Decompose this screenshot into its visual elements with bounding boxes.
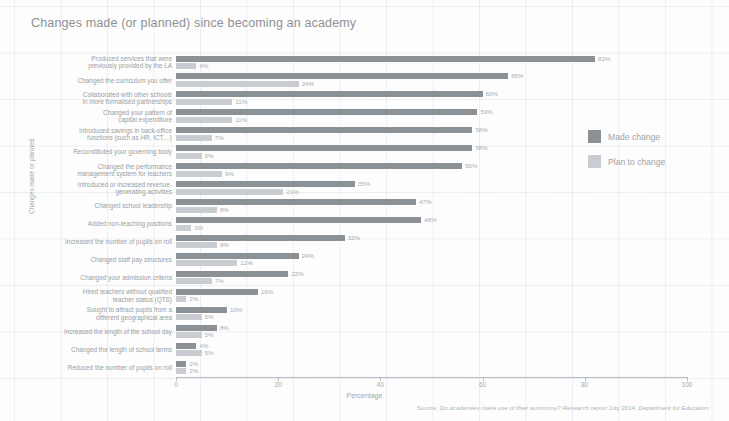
bar-value-label-made-change: 60%: [486, 90, 498, 97]
bar-made-change: [176, 91, 483, 97]
chart-page: Changes made (or planned) since becoming…: [0, 0, 729, 421]
bar-made-change: [176, 307, 227, 313]
x-axis-tick-label: 100: [682, 381, 693, 388]
bar-group: 82%4%: [176, 54, 687, 72]
bar-value-label-made-change: 4%: [199, 342, 208, 349]
bar-value-label-made-change: 16%: [261, 288, 273, 295]
legend-label-plan-to-change: Plan to change: [608, 157, 665, 167]
bar-group: 33%8%: [176, 233, 687, 251]
bar-plan-to-change: [176, 296, 186, 302]
x-axis-title: Percentage: [0, 392, 729, 399]
legend-label-made-change: Made change: [608, 132, 660, 142]
bar-value-label-plan-to-change: 12%: [240, 259, 252, 266]
category-label: Produced services that were previously p…: [22, 55, 172, 70]
bar-made-change: [176, 109, 477, 115]
bar-value-label-plan-to-change: 11%: [235, 116, 247, 123]
bar-plan-to-change: [176, 207, 217, 213]
category-label: Sought to attract pupils from a differen…: [22, 306, 172, 321]
bar-plan-to-change: [176, 135, 212, 141]
category-label: Changed staff pay structures: [22, 256, 172, 263]
bar-group: 4%5%: [176, 341, 687, 359]
category-label: Changed school leadership: [22, 202, 172, 209]
bar-made-change: [176, 56, 595, 62]
bar-value-label-plan-to-change: 8%: [220, 241, 229, 248]
bar-group: 22%7%: [176, 269, 687, 287]
bar-value-label-plan-to-change: 11%: [235, 98, 247, 105]
legend-entry-made-change: Made change: [588, 130, 665, 143]
bar-value-label-made-change: 22%: [291, 270, 303, 277]
bar-value-label-plan-to-change: 21%: [286, 188, 298, 195]
bar-value-label-plan-to-change: 5%: [205, 349, 214, 356]
bar-value-label-plan-to-change: 2%: [189, 295, 198, 302]
bar-value-label-plan-to-change: 7%: [215, 134, 224, 141]
bar-value-label-made-change: 58%: [475, 126, 487, 133]
category-label: Introduced savings in back-office functi…: [22, 127, 172, 142]
bar-made-change: [176, 217, 421, 223]
bar-made-change: [176, 271, 288, 277]
bar-value-label-plan-to-change: 3%: [194, 224, 203, 231]
legend-entry-plan-to-change: Plan to change: [588, 155, 665, 168]
category-label: Changed your admission criteria: [22, 274, 172, 281]
bar-made-change: [176, 253, 299, 259]
bar-plan-to-change: [176, 81, 299, 87]
bar-plan-to-change: [176, 117, 232, 123]
bar-plan-to-change: [176, 368, 186, 374]
bar-value-label-plan-to-change: 5%: [205, 152, 214, 159]
source-prefix: Source:: [417, 404, 440, 411]
source-date: July 2014,: [607, 404, 639, 411]
bar-made-change: [176, 199, 416, 205]
bar-plan-to-change: [176, 260, 237, 266]
bar-value-label-made-change: 56%: [465, 162, 477, 169]
bar-made-change: [176, 73, 508, 79]
bar-made-change: [176, 361, 186, 367]
bar-value-label-plan-to-change: 4%: [199, 62, 208, 69]
bar-value-label-made-change: 82%: [598, 55, 610, 62]
category-label: Introduced or increased revenue- generat…: [22, 181, 172, 196]
plot-area: 82%4%65%24%60%11%59%11%58%7%58%5%56%9%35…: [176, 54, 687, 377]
source-publisher: Department for Education: [638, 404, 709, 411]
bar-value-label-plan-to-change: 5%: [205, 331, 214, 338]
legend-swatch-plan-to-change: [588, 155, 601, 168]
bar-value-label-made-change: 35%: [358, 180, 370, 187]
bar-value-label-made-change: 33%: [348, 234, 360, 241]
bar-made-change: [176, 181, 355, 187]
bar-value-label-made-change: 2%: [189, 360, 198, 367]
bar-plan-to-change: [176, 225, 191, 231]
chart-legend: Made change Plan to change: [588, 130, 665, 180]
category-label: Changed your pattern of capital expendit…: [22, 109, 172, 124]
x-axis-tick-label: 40: [377, 381, 384, 388]
bar-value-label-plan-to-change: 8%: [220, 206, 229, 213]
bar-value-label-plan-to-change: 2%: [189, 367, 198, 374]
category-label: Reduced the number of pupils on roll: [22, 364, 172, 371]
chart-title: Changes made (or planned) since becoming…: [31, 16, 356, 30]
source-note: Source: Do academies make use of their a…: [417, 404, 709, 411]
x-axis-line: [176, 377, 687, 378]
bar-made-change: [176, 127, 472, 133]
bar-group: 59%11%: [176, 108, 687, 126]
category-label: Changed the curriculum you offer: [22, 77, 172, 84]
bar-value-label-made-change: 58%: [475, 144, 487, 151]
bar-value-label-made-change: 24%: [302, 252, 314, 259]
bar-value-label-plan-to-change: 7%: [215, 277, 224, 284]
bar-group: 47%8%: [176, 198, 687, 216]
bar-plan-to-change: [176, 314, 202, 320]
bar-value-label-made-change: 59%: [480, 108, 492, 115]
bar-group: 8%5%: [176, 323, 687, 341]
bar-group: 35%21%: [176, 180, 687, 198]
bar-value-label-plan-to-change: 5%: [205, 313, 214, 320]
bar-value-label-made-change: 47%: [419, 198, 431, 205]
bar-value-label-plan-to-change: 24%: [302, 80, 314, 87]
bar-group: 65%24%: [176, 72, 687, 90]
bar-plan-to-change: [176, 242, 217, 248]
bar-made-change: [176, 325, 217, 331]
bar-plan-to-change: [176, 350, 202, 356]
x-axis-tick-label: 80: [581, 381, 588, 388]
x-axis-tick-label: 0: [174, 381, 178, 388]
bar-group: 16%2%: [176, 287, 687, 305]
bar-made-change: [176, 289, 258, 295]
bar-group: 60%11%: [176, 90, 687, 108]
bar-plan-to-change: [176, 332, 202, 338]
bar-value-label-made-change: 65%: [511, 72, 523, 79]
bar-plan-to-change: [176, 153, 202, 159]
bar-plan-to-change: [176, 99, 232, 105]
